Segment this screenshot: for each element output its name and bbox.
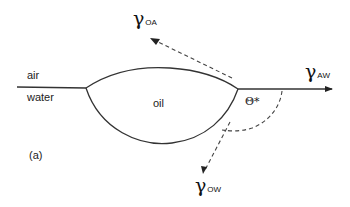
panel-label: (a) xyxy=(29,150,42,161)
gamma-oa-arrowhead xyxy=(150,38,160,45)
gamma-ow-symbol: γ xyxy=(195,174,206,196)
oil-lens-diagram: air water oil γOA γAW γOW Θ* (a) xyxy=(0,0,350,207)
gamma-aw-symbol: γ xyxy=(305,60,316,82)
gamma-ow-subscript: OW xyxy=(207,185,221,194)
gamma-oa-arrow xyxy=(156,41,232,78)
gamma-oa-subscript: OA xyxy=(145,18,157,27)
interface-line-left xyxy=(17,87,86,88)
diagram-canvas xyxy=(0,0,350,207)
contact-angle-label: Θ* xyxy=(245,96,260,107)
oil-label: oil xyxy=(153,98,164,109)
air-label: air xyxy=(27,70,39,81)
gamma-aw-label: γAW xyxy=(305,62,330,81)
gamma-oa-symbol: γ xyxy=(133,7,144,29)
water-label: water xyxy=(27,92,54,103)
oil-air-interface xyxy=(86,68,238,89)
gamma-ow-label: γOW xyxy=(195,176,221,195)
gamma-oa-label: γOA xyxy=(133,9,157,28)
gamma-aw-subscript: AW xyxy=(317,71,330,80)
gamma-ow-arrowhead xyxy=(201,166,207,174)
